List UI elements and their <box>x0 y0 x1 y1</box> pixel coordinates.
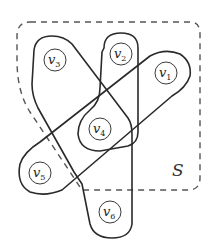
vertex-v3: v3 <box>44 49 66 71</box>
hypergraph-diagram: v1 v2 v3 v4 v5 v6 S <box>0 0 217 252</box>
region-s-label: S <box>172 160 184 180</box>
svg-text:v5: v5 <box>33 165 45 182</box>
svg-text:v4: v4 <box>93 121 105 138</box>
svg-text:v3: v3 <box>48 52 60 69</box>
vertex-v6: v6 <box>99 201 121 223</box>
vertex-v1: v1 <box>155 62 177 84</box>
vertex-v2: v2 <box>110 43 132 65</box>
vertex-v4: v4 <box>89 118 111 140</box>
svg-text:v1: v1 <box>159 65 171 82</box>
svg-text:v6: v6 <box>103 204 115 221</box>
svg-text:v2: v2 <box>114 46 126 63</box>
vertex-v5: v5 <box>29 162 51 184</box>
